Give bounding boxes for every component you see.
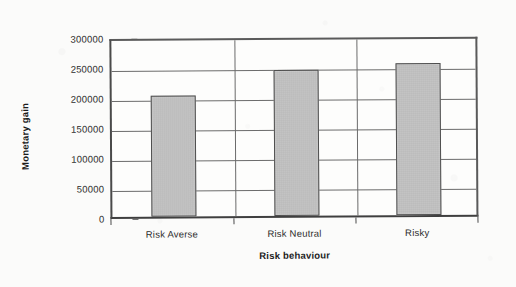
- plot-area: [109, 37, 478, 219]
- x-tick-label: Risk Averse: [146, 228, 198, 239]
- x-axis-title: Risk behaviour: [111, 249, 479, 262]
- x-tick-mark: [233, 218, 234, 224]
- x-axis-labels: Risk AverseRisk NeutralRisky: [111, 227, 479, 245]
- y-tick-label: 250000: [71, 63, 104, 74]
- y-axis: 050000100000150000200000250000300000: [27, 39, 104, 219]
- chart-canvas: 050000100000150000200000250000300000 Mon…: [0, 0, 516, 287]
- y-tick-label: 300000: [70, 33, 103, 44]
- bar-chart-figure: 050000100000150000200000250000300000 Mon…: [0, 0, 516, 287]
- y-tick-label: 100000: [71, 153, 104, 164]
- y-tick-label: 50000: [77, 183, 104, 194]
- x-tick-mark: [356, 217, 357, 223]
- bar-risk-averse: [151, 95, 197, 217]
- x-tick-mark: [477, 217, 478, 223]
- x-tick-mark: [110, 219, 111, 225]
- gridline-vertical: [234, 40, 236, 216]
- bar-risky: [396, 62, 442, 215]
- y-axis-title-container: Monetary gain: [16, 81, 35, 191]
- y-axis-title: Monetary gain: [19, 103, 30, 170]
- x-tick-label: Risky: [405, 227, 429, 238]
- gridline-vertical: [357, 39, 359, 215]
- y-tick-label: 0: [99, 213, 105, 224]
- x-tick-label: Risk Neutral: [267, 228, 321, 239]
- y-tick-label: 150000: [71, 123, 104, 134]
- y-tick-label: 200000: [71, 93, 104, 104]
- bar-risk-neutral: [273, 69, 319, 216]
- x-axis-ticks: [110, 217, 478, 226]
